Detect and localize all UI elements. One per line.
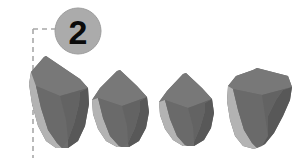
illustration-canvas: 2 xyxy=(0,0,304,158)
figure-root: 2 xyxy=(0,0,304,158)
callout-badge[interactable]: 2 xyxy=(55,8,101,54)
badge-number-label: 2 xyxy=(69,13,88,51)
